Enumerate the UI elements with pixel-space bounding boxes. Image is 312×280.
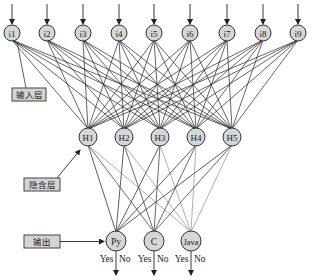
svg-text:C: C bbox=[151, 237, 157, 247]
svg-text:i4: i4 bbox=[115, 29, 123, 39]
output-yes-label: Yes bbox=[138, 254, 152, 264]
svg-text:输入层: 输入层 bbox=[16, 90, 43, 100]
hidden-node-H4: H4 bbox=[187, 128, 205, 146]
input-arrows bbox=[12, 4, 298, 24]
svg-text:Py: Py bbox=[111, 237, 121, 247]
svg-text:隐含层: 隐含层 bbox=[29, 180, 56, 190]
output-yes-label: Yes bbox=[100, 254, 114, 264]
svg-text:H4: H4 bbox=[191, 133, 202, 143]
svg-text:i2: i2 bbox=[43, 29, 50, 39]
input-node-i4: i4 bbox=[111, 25, 127, 41]
hidden-output-edges bbox=[88, 145, 232, 232]
hidden-node-H2: H2 bbox=[115, 128, 133, 146]
output-node-Java: Java bbox=[181, 231, 201, 251]
output-no-label: No bbox=[119, 254, 131, 264]
input-node-i9: i9 bbox=[290, 25, 306, 41]
input-node-i1: i1 bbox=[4, 25, 20, 41]
output-layer-label: 输出 bbox=[24, 235, 60, 248]
output-yes-label: Yes bbox=[175, 254, 189, 264]
output-arrows: YesNoYesNoYesNo bbox=[100, 251, 206, 275]
input-node-i6: i6 bbox=[182, 25, 198, 41]
output-node-Py: Py bbox=[106, 231, 126, 251]
input-node-i2: i2 bbox=[39, 25, 55, 41]
hidden-node-H1: H1 bbox=[79, 128, 97, 146]
input-layer-label: 输入层 bbox=[12, 88, 46, 101]
svg-text:H3: H3 bbox=[155, 133, 166, 143]
svg-text:i6: i6 bbox=[186, 29, 194, 39]
output-no-label: No bbox=[194, 254, 206, 264]
hidden-node-H5: H5 bbox=[223, 128, 241, 146]
output-node-C: C bbox=[144, 231, 164, 251]
hidden-node-H3: H3 bbox=[151, 128, 169, 146]
svg-text:i7: i7 bbox=[223, 29, 231, 39]
svg-text:输出: 输出 bbox=[33, 237, 51, 247]
output-no-label: No bbox=[157, 254, 169, 264]
input-node-i7: i7 bbox=[219, 25, 235, 41]
svg-text:i8: i8 bbox=[259, 29, 267, 39]
svg-text:i3: i3 bbox=[79, 29, 87, 39]
svg-text:i1: i1 bbox=[8, 29, 15, 39]
input-hidden-edges bbox=[12, 40, 298, 129]
svg-text:H1: H1 bbox=[83, 133, 94, 143]
input-node-i5: i5 bbox=[146, 25, 162, 41]
svg-text:Java: Java bbox=[183, 237, 198, 247]
svg-text:H5: H5 bbox=[227, 133, 238, 143]
svg-text:i9: i9 bbox=[294, 29, 302, 39]
layer-labels: 输入层隐含层输出 bbox=[12, 88, 60, 248]
svg-text:H2: H2 bbox=[119, 133, 130, 143]
hidden-layer-label: 隐含层 bbox=[24, 178, 60, 191]
svg-text:i5: i5 bbox=[150, 29, 158, 39]
input-node-i8: i8 bbox=[255, 25, 271, 41]
neural-network-diagram: YesNoYesNoYesNo i1i2i3i4i5i6i7i8i9H1H2H3… bbox=[0, 0, 312, 280]
input-node-i3: i3 bbox=[75, 25, 91, 41]
